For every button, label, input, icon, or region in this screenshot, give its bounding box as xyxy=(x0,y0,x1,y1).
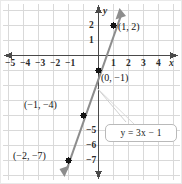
graph-figure: −5 −4 −3 −2 −1 1 2 3 4 x 2 1 −5 −6 −7 y … xyxy=(0,0,182,184)
y-tick-2: 2 xyxy=(89,21,94,31)
x-tick-2: 2 xyxy=(126,59,131,69)
x-tick-4: 4 xyxy=(156,59,161,69)
point-1-2 xyxy=(110,22,116,28)
x-tick-3: 3 xyxy=(141,59,146,69)
point-label-neg1-neg4: (−1, −4) xyxy=(24,100,57,110)
x-axis-name: x xyxy=(169,59,174,69)
x-tick-neg2: −2 xyxy=(50,59,60,69)
equation-callout: y = 3x − 1 xyxy=(105,124,177,142)
x-tick-neg3: −3 xyxy=(35,59,45,69)
y-axis-name: y xyxy=(103,7,107,17)
y-tick-neg7: −7 xyxy=(86,156,96,166)
x-axis xyxy=(4,52,178,59)
point-neg1-neg4 xyxy=(80,112,86,118)
x-tick-neg1: −1 xyxy=(65,59,75,69)
plotted-line xyxy=(60,8,127,177)
y-tick-1: 1 xyxy=(89,36,94,46)
x-tick-1: 1 xyxy=(111,59,116,69)
point-neg2-neg7 xyxy=(65,157,71,163)
x-tick-neg5: −5 xyxy=(5,59,15,69)
y-tick-neg6: −6 xyxy=(86,141,96,151)
point-label-0-neg1: (0, −1) xyxy=(101,73,128,83)
point-label-1-2: (1, 2) xyxy=(118,22,140,32)
x-tick-neg4: −4 xyxy=(20,59,30,69)
y-tick-neg5: −5 xyxy=(86,126,96,136)
point-label-neg2-neg7: (−2, −7) xyxy=(13,151,46,161)
